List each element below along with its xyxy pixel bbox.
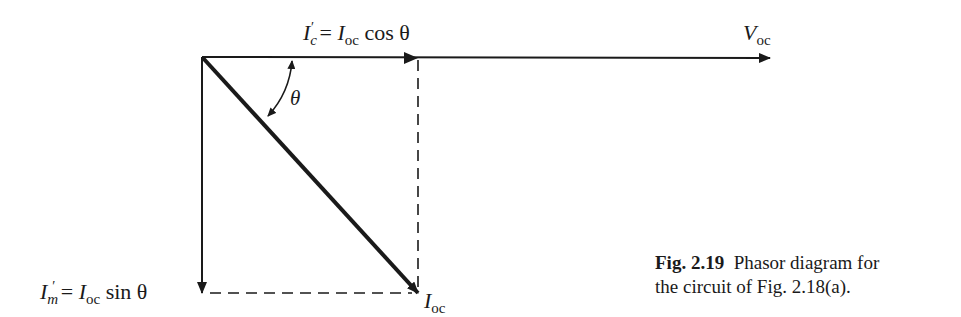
theta-angle-arc [268,61,292,116]
im-equals: = [55,279,78,304]
im-label: Im′ = Ioc sin θ [40,281,147,303]
im-prime: ′ [52,279,55,294]
ic-rhs-function: cos θ [359,20,410,45]
figure-caption: Fig. 2.19 Phasor diagram for the circuit… [655,251,879,299]
ic-arrowhead [404,52,418,64]
ioc-subscript: oc [431,300,445,316]
ic-rhs-subscript: oc [345,32,359,48]
caption-line-2: the circuit of Fig. 2.18(a). [655,276,851,297]
voc-subscript: oc [756,32,770,48]
im-rhs-subscript: oc [86,291,100,307]
im-rhs-function: sin θ [100,279,147,304]
ic-prime: ′ [311,20,314,35]
ic-label: Ic′ = Ioc cos θ [303,22,410,44]
theta-label: θ [290,88,300,109]
ic-equals: = [314,20,337,45]
ioc-label: Ioc [424,290,446,312]
caption-line-1: Phasor diagram for [734,252,880,273]
ic-rhs-symbol: I [337,20,344,45]
ioc-phasor [203,58,418,293]
voc-label: Voc [743,22,771,44]
im-rhs-symbol: I [79,279,86,304]
voc-symbol: V [743,20,756,45]
figure-number: Fig. 2.19 [655,252,724,273]
voc-phasor [202,57,770,58]
